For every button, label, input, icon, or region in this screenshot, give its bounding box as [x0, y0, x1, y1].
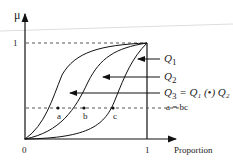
relation-label: a = bc — [166, 103, 188, 112]
x-one-label: 1 — [145, 146, 150, 155]
curve-q3 — [25, 43, 147, 139]
background-line — [0, 24, 233, 31]
y-one-label: 1 — [13, 39, 18, 48]
point-c — [111, 106, 114, 109]
point-b — [82, 106, 85, 109]
point-a-label: a — [57, 112, 61, 121]
x-axis-label: Proportion — [174, 146, 213, 155]
label-q1: Q1 — [164, 53, 176, 67]
point-b-label: b — [83, 112, 88, 121]
diagram-canvas — [0, 0, 233, 165]
label-q2: Q2 — [164, 71, 176, 85]
label-q3: Q3 = Q₁ (•) Q₂ — [164, 87, 230, 101]
point-c-label: c — [113, 112, 117, 121]
point-a — [56, 106, 59, 109]
origin-label: 0 — [22, 146, 27, 155]
curve-q1 — [25, 43, 147, 139]
y-axis-label: μ — [14, 9, 20, 21]
curve-q2 — [25, 43, 147, 139]
